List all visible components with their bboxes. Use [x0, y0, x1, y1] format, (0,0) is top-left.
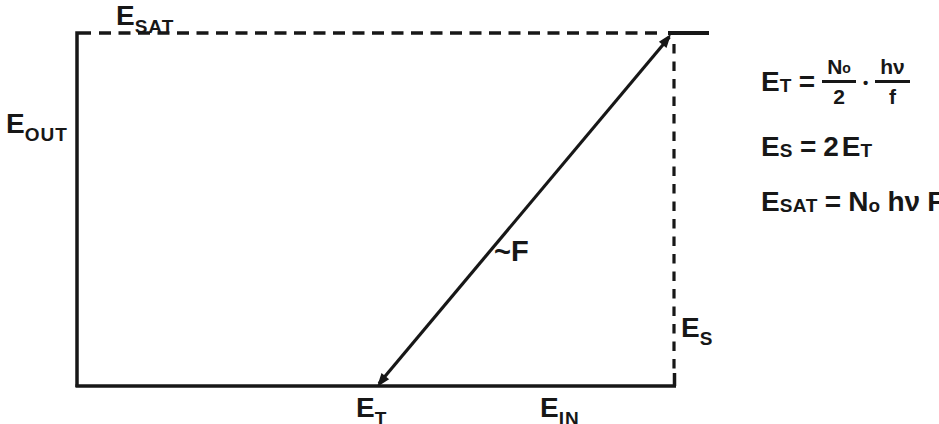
equation-threshold: ET = No 2 • hν f — [761, 56, 910, 107]
eq2-rhs-subscript: T — [861, 141, 873, 160]
transfer-line — [379, 37, 670, 384]
x-axis-label-subscript: IN — [559, 408, 580, 424]
threshold-label: ET — [356, 394, 387, 422]
switch-energy-subscript: S — [700, 328, 714, 349]
eq3-lhs-subscript: SAT — [780, 196, 818, 215]
eq3-photon-term: hν — [887, 188, 920, 216]
slope-label: ~F — [494, 237, 529, 266]
y-axis-line — [77, 33, 91, 387]
switch-energy-base: E — [681, 312, 700, 343]
eq1-frac1-num-base: N — [827, 56, 842, 77]
y-axis-label-subscript: OUT — [25, 124, 68, 145]
saturation-level-subscript: SAT — [135, 16, 175, 37]
y-axis-label: EOUT — [6, 110, 68, 138]
switch-energy-label: ES — [681, 314, 713, 342]
equation-saturation-lhs: ESAT — [761, 188, 818, 216]
eq3-term1-subscript: o — [868, 196, 880, 215]
eq2-equals-sign: = — [800, 133, 816, 161]
eq1-equals-sign: = — [799, 68, 815, 96]
eq1-frac2-denominator: f — [875, 80, 910, 107]
eq2-rhs-coefficient: 2 — [823, 133, 839, 161]
threshold-label-subscript: T — [375, 408, 388, 424]
eq3-fluence-term: F — [927, 188, 939, 216]
threshold-label-base: E — [356, 392, 375, 423]
eq1-frac1-denominator: 2 — [822, 80, 856, 107]
x-axis-label-base: E — [540, 392, 559, 423]
saturation-level-label: ESAT — [116, 2, 174, 30]
eq1-lhs-subscript: T — [780, 76, 792, 95]
x-axis-label: EIN — [540, 394, 580, 422]
saturation-level-base: E — [116, 0, 135, 31]
equation-switch: ES = 2ET — [761, 133, 873, 161]
multiplication-dot: • — [863, 75, 868, 90]
eq1-fraction-population: No 2 — [822, 56, 856, 107]
eq2-rhs-base: E — [842, 133, 861, 161]
equation-saturation: ESAT = No hν F — [761, 188, 939, 216]
eq2-lhs-subscript: S — [780, 141, 793, 160]
eq1-frac1-numerator: No — [822, 56, 856, 80]
equation-threshold-lhs: ET — [761, 68, 792, 96]
eq3-population-term: No — [848, 188, 880, 216]
eq3-term1-base: N — [848, 188, 868, 216]
eq1-frac2-numerator: hν — [875, 56, 910, 80]
eq3-equals-sign: = — [825, 188, 841, 216]
eq1-frac1-num-subscript: o — [842, 61, 851, 75]
figure-canvas: ESAT EOUT ~F ET EIN ES ET = No 2 • hν f … — [0, 0, 939, 424]
equation-switch-lhs: ES — [761, 133, 793, 161]
eq2-lhs-base: E — [761, 133, 780, 161]
eq1-fraction-photon: hν f — [875, 56, 910, 107]
eq3-lhs-base: E — [761, 188, 780, 216]
y-axis-label-base: E — [6, 108, 25, 139]
equation-switch-rhs: 2ET — [823, 133, 872, 161]
eq1-lhs-base: E — [761, 68, 780, 96]
